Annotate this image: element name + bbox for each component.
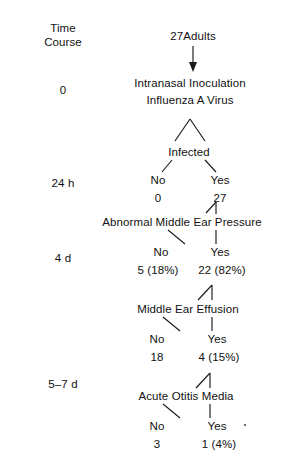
pressure-no-label: No [154,246,169,259]
time-point-0: 0 [60,84,67,98]
otitis-no-count: 3 [154,438,161,451]
effusion-no-count: 18 [151,351,164,364]
otitis-yes-label: Yes [207,420,226,433]
time-course-header-line1: Time [44,22,82,36]
time-point-4d: 4 d [55,252,71,266]
stage-inoculation-line1: Intranasal Inoculation [134,77,246,90]
stage-acute-otitis-media: Acute Otitis Media [138,390,233,403]
pressure-no-count: 5 (18%) [138,264,179,277]
connector-inoculation-to-infected-right [190,119,205,141]
time-point-5-7d: 5–7 d [48,378,77,392]
connector-infected-to-no [162,160,172,172]
pressure-yes-label: Yes [210,246,229,259]
pressure-yes-count: 22 (82%) [198,264,245,277]
infected-yes-label: Yes [210,174,229,187]
flowchart-figure: Time Course 0 24 h 4 d 5–7 d 27Adults In… [0,0,288,462]
connector-effusion-to-no [163,317,180,331]
time-point-24h: 24 h [52,177,75,191]
time-course-header: Time Course [63,22,101,49]
effusion-yes-count: 4 (15%) [199,351,240,364]
effusion-no-label: No [150,333,165,346]
stage-inoculation-line2: Influenza A Virus [146,94,233,107]
connector-22-to-effusion-diagonal [198,285,212,300]
infected-no-label: No [151,174,166,187]
stage-infected: Infected [168,146,210,159]
arrow-head-down [189,62,197,72]
connector-otitis-to-no [163,404,180,418]
connector-infected-to-yes [205,160,216,172]
otitis-no-label: No [150,420,165,433]
infected-yes-count: 27 [214,192,227,205]
time-course-header-line2: Course [44,36,82,50]
infected-no-count: 0 [155,192,162,205]
scan-speck-artifact [244,424,246,426]
connector-4-to-otitis-diagonal [196,373,210,388]
stage-middle-ear-effusion: Middle Ear Effusion [137,303,238,316]
connector-inoculation-to-infected-left [175,119,190,141]
connector-pressure-to-no [168,230,185,244]
effusion-yes-label: Yes [207,333,226,346]
otitis-yes-count: 1 (4%) [202,438,236,451]
stage-abnormal-middle-ear-pressure: Abnormal Middle Ear Pressure [102,216,261,229]
cohort-label: 27Adults [170,30,216,43]
